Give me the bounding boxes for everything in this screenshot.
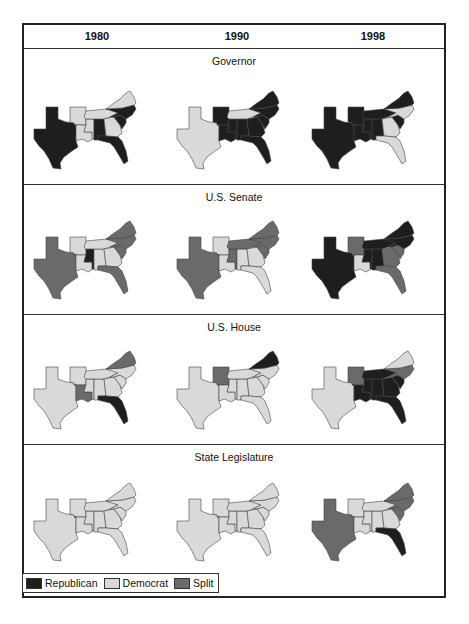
- map-legislature-1998: [304, 481, 428, 563]
- state-fl: [98, 266, 128, 294]
- state-ar: [213, 499, 229, 517]
- state-fl: [376, 528, 406, 556]
- map-governor-1998: [304, 89, 428, 171]
- year-label-1990: 1990: [207, 30, 267, 42]
- panel-title: U.S. Senate: [24, 191, 444, 203]
- state-fl: [241, 528, 271, 556]
- legend-label: Democrat: [123, 577, 169, 589]
- state-fl: [98, 136, 128, 164]
- democrat-swatch: [104, 578, 120, 589]
- legend-label: Republican: [45, 577, 98, 589]
- map-legislature-1980: [26, 481, 150, 563]
- state-ar: [348, 107, 364, 125]
- state-ar: [213, 237, 229, 255]
- map-legislature-1990: [169, 481, 293, 563]
- state-fl: [376, 266, 406, 294]
- state-fl: [241, 266, 271, 294]
- year-label-1998: 1998: [343, 30, 403, 42]
- figure-frame: 1980 1990 1998 Governor U.S. Senate U.S.…: [22, 23, 446, 598]
- state-ar: [70, 237, 86, 255]
- panel-us-senate: U.S. Senate: [24, 185, 444, 315]
- map-senate-1998: [304, 219, 428, 301]
- state-ar: [70, 499, 86, 517]
- state-fl: [241, 136, 271, 164]
- state-fl: [98, 528, 128, 556]
- panel-title: U.S. House: [24, 321, 444, 333]
- panel-title: State Legislature: [24, 451, 444, 463]
- map-senate-1990: [169, 219, 293, 301]
- state-fl: [241, 396, 271, 424]
- split-swatch: [174, 578, 190, 589]
- panel-us-house: U.S. House: [24, 315, 444, 445]
- state-fl: [376, 396, 406, 424]
- year-label-1980: 1980: [67, 30, 127, 42]
- state-ar: [348, 367, 364, 385]
- legend-item-split: Split: [174, 577, 213, 589]
- map-senate-1980: [26, 219, 150, 301]
- year-header: 1980 1990 1998: [24, 25, 444, 49]
- state-ar: [213, 107, 229, 125]
- state-ar: [348, 499, 364, 517]
- panel-governor: Governor: [24, 49, 444, 185]
- state-ar: [348, 237, 364, 255]
- republican-swatch: [26, 578, 42, 589]
- map-house-1990: [169, 349, 293, 431]
- legend-label: Split: [193, 577, 213, 589]
- legend: Republican Democrat Split: [22, 573, 219, 593]
- map-governor-1990: [169, 89, 293, 171]
- panel-title: Governor: [24, 55, 444, 67]
- map-house-1980: [26, 349, 150, 431]
- state-ar: [70, 367, 86, 385]
- legend-item-republican: Republican: [26, 577, 98, 589]
- map-governor-1980: [26, 89, 150, 171]
- state-ar: [213, 367, 229, 385]
- state-ar: [70, 107, 86, 125]
- legend-item-democrat: Democrat: [104, 577, 169, 589]
- state-fl: [98, 396, 128, 424]
- state-fl: [376, 136, 406, 164]
- map-house-1998: [304, 349, 428, 431]
